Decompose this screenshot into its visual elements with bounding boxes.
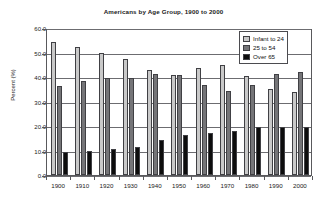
bar-group-1920: [95, 30, 119, 175]
chart-title: Americans by Age Group, 1900 to 2000: [0, 8, 327, 15]
bar: [226, 91, 231, 175]
x-tick-mark: [239, 176, 240, 180]
bar: [99, 53, 104, 175]
legend-item[interactable]: Over 65: [243, 52, 284, 61]
y-axis-ticks: 0.010.020.030.040.050.060.0: [0, 0, 46, 206]
bar: [268, 89, 273, 175]
bar: [220, 65, 225, 175]
bar: [280, 127, 285, 175]
x-tick-mark: [191, 176, 192, 180]
x-tick-mark: [264, 176, 265, 180]
x-tick-mark: [215, 176, 216, 180]
bar: [244, 76, 249, 175]
bar: [147, 70, 152, 175]
bar: [135, 147, 140, 175]
bar: [232, 131, 237, 175]
bar-group-1960: [192, 30, 216, 175]
bar: [153, 74, 158, 175]
legend-swatch-icon: [243, 54, 250, 60]
bar-group-1950: [168, 30, 192, 175]
bar-group-1930: [120, 30, 144, 175]
bar-group-1970: [216, 30, 240, 175]
bar: [105, 78, 110, 175]
x-tick-mark: [312, 176, 313, 180]
bar: [87, 151, 92, 175]
bar: [57, 86, 62, 175]
bar: [81, 81, 86, 175]
y-tick-label: 30.0: [4, 100, 46, 106]
x-tick-mark: [70, 176, 71, 180]
bar: [196, 68, 201, 175]
bar: [183, 135, 188, 175]
bar: [63, 152, 68, 175]
bar: [292, 92, 297, 175]
y-tick-label: 40.0: [4, 75, 46, 81]
y-tick-label: 0.0: [4, 173, 46, 179]
legend-swatch-icon: [243, 36, 250, 42]
bar: [298, 72, 303, 175]
bar: [111, 149, 116, 175]
legend-label: Infant to 24: [253, 34, 284, 43]
bar: [75, 47, 80, 175]
x-tick-mark: [119, 176, 120, 180]
bar: [274, 74, 279, 175]
bar: [202, 85, 207, 175]
bar: [123, 59, 128, 175]
bar-chart: Americans by Age Group, 1900 to 2000 Per…: [0, 0, 327, 206]
legend-label: 25 to 54: [253, 43, 275, 52]
y-tick-label: 20.0: [4, 124, 46, 130]
bar: [159, 140, 164, 175]
y-tick-label: 50.0: [4, 51, 46, 57]
bar: [208, 133, 213, 175]
y-tick-label: 10.0: [4, 149, 46, 155]
bar-group-1910: [71, 30, 95, 175]
bar: [177, 75, 182, 175]
chart-legend: Infant to 2425 to 54Over 65: [239, 31, 288, 64]
x-tick-mark: [167, 176, 168, 180]
x-tick-label: 2000: [285, 182, 315, 189]
legend-label: Over 65: [253, 52, 275, 61]
x-tick-mark: [46, 176, 47, 180]
legend-item[interactable]: Infant to 24: [243, 34, 284, 43]
x-tick-mark: [94, 176, 95, 180]
bar: [129, 78, 134, 175]
bar-group-2000: [289, 30, 313, 175]
bar-group-1900: [47, 30, 71, 175]
x-tick-mark: [288, 176, 289, 180]
y-tick-label: 60.0: [4, 26, 46, 32]
legend-swatch-icon: [243, 45, 250, 51]
legend-item[interactable]: 25 to 54: [243, 43, 284, 52]
bar: [171, 75, 176, 175]
bar: [250, 85, 255, 175]
x-axis: 1900191019201930194019501960197019801990…: [46, 176, 312, 206]
x-tick-mark: [143, 176, 144, 180]
bar: [256, 127, 261, 175]
bar: [51, 42, 56, 175]
bar: [304, 127, 309, 175]
bar-group-1940: [144, 30, 168, 175]
